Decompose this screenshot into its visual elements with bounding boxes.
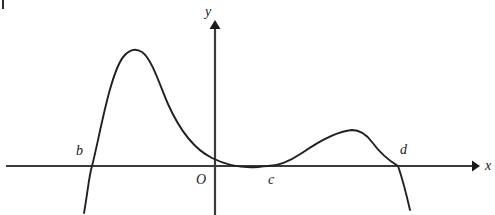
- y-axis: [210, 20, 221, 215]
- polynomial-curve: [84, 50, 410, 213]
- x-axis-arrowhead-icon: [472, 161, 480, 172]
- x-intercept-label-d: d: [400, 143, 407, 157]
- origin-label: O: [196, 173, 206, 187]
- x-intercept-label-b: b: [76, 144, 83, 158]
- y-axis-arrowhead-icon: [210, 20, 221, 29]
- x-axis-label: x: [485, 159, 491, 173]
- x-axis: [6, 161, 480, 172]
- y-axis-label: y: [205, 5, 211, 19]
- graph-canvas: [0, 0, 495, 215]
- function-graph-figure: y x O b c d: [0, 0, 495, 215]
- x-intercept-label-c: c: [268, 173, 274, 187]
